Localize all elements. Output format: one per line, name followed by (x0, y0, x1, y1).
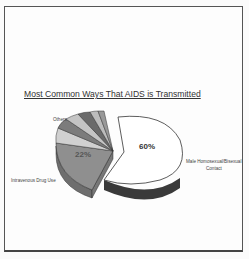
pie-chart (0, 0, 249, 259)
label-drug-use: Intravenous Drug Use (11, 178, 56, 183)
label-male-contact-line2: Contact (206, 166, 222, 171)
label-male-contact-line1: Male Homosexual/Bisexual (186, 159, 241, 164)
pct-label-60: 60% (139, 142, 155, 151)
pct-label-22: 22% (75, 150, 91, 159)
label-others: Others (53, 117, 67, 122)
